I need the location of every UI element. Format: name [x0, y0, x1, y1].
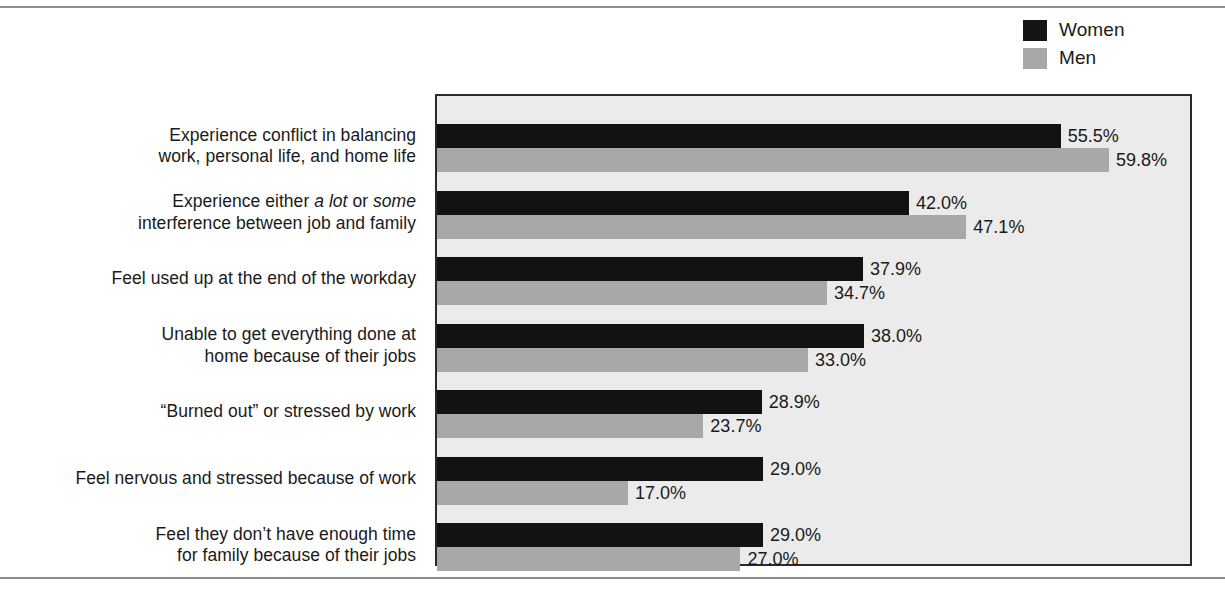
bar-men-3 [437, 348, 808, 372]
bar-value-women-6: 29.0% [763, 523, 821, 547]
bar-women-0 [437, 124, 1061, 148]
category-label-1: Experience either a lot or someinterfere… [20, 191, 416, 234]
bar-women-4 [437, 390, 762, 414]
bar-men-0 [437, 148, 1109, 172]
bar-value-men-2: 34.7% [827, 281, 885, 305]
chart-legend: Women Men [1023, 16, 1213, 72]
bar-value-men-3: 33.0% [808, 348, 866, 372]
bar-value-women-2: 37.9% [863, 257, 921, 281]
category-label-4: “Burned out” or stressed by work [20, 401, 416, 423]
bar-women-5 [437, 457, 763, 481]
bar-value-men-0: 59.8% [1109, 148, 1167, 172]
legend-label-women: Women [1059, 19, 1125, 41]
category-label-2: Feel used up at the end of the workday [20, 268, 416, 290]
bar-value-men-4: 23.7% [703, 414, 761, 438]
legend-swatch-men-icon [1023, 48, 1047, 69]
category-label-5: Feel nervous and stressed because of wor… [20, 468, 416, 490]
category-axis-labels: Experience conflict in balancingwork, pe… [20, 94, 426, 566]
bar-women-6 [437, 523, 763, 547]
category-label-6: Feel they don’t have enough timefor fami… [20, 524, 416, 567]
bar-men-6 [437, 547, 740, 571]
category-label-0: Experience conflict in balancingwork, pe… [20, 125, 416, 168]
bar-men-4 [437, 414, 703, 438]
bar-value-women-3: 38.0% [864, 324, 922, 348]
bar-women-2 [437, 257, 863, 281]
bar-men-2 [437, 281, 827, 305]
bar-men-5 [437, 481, 628, 505]
bar-value-women-0: 55.5% [1061, 124, 1119, 148]
bars-container: 55.5%59.8%42.0%47.1%37.9%34.7%38.0%33.0%… [437, 96, 1190, 564]
legend-swatch-women-icon [1023, 20, 1047, 41]
bar-value-men-1: 47.1% [966, 215, 1024, 239]
bar-men-1 [437, 215, 966, 239]
bar-value-women-4: 28.9% [762, 390, 820, 414]
legend-item-women: Women [1023, 16, 1213, 44]
bar-value-women-1: 42.0% [909, 191, 967, 215]
category-label-3: Unable to get everything done athome bec… [20, 324, 416, 367]
bar-value-men-6: 27.0% [740, 547, 798, 571]
bar-chart-figure: Women Men Experience conflict in balanci… [0, 0, 1225, 600]
bar-value-women-5: 29.0% [763, 457, 821, 481]
legend-label-men: Men [1059, 47, 1096, 69]
bar-value-men-5: 17.0% [628, 481, 686, 505]
plot-area: 55.5%59.8%42.0%47.1%37.9%34.7%38.0%33.0%… [435, 94, 1192, 566]
legend-item-men: Men [1023, 44, 1213, 72]
bar-women-1 [437, 191, 909, 215]
bar-women-3 [437, 324, 864, 348]
